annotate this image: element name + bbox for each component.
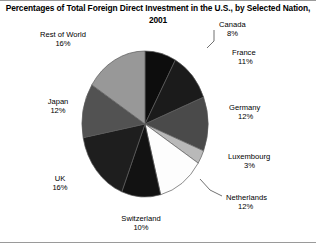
slice-name-switzerland: Switzerland [110,214,172,223]
slice-value-switzerland: 10% [110,223,172,232]
slice-label-uk: UK 16% [42,174,78,193]
slice-value-uk: 16% [42,183,78,192]
chart-title-line-1: Percentages of Total Foreign Direct Inve… [6,3,281,13]
slice-value-germany: 12% [229,112,285,121]
slice-name-japan: Japan [38,97,78,106]
slice-value-netherlands: 12% [226,202,284,211]
slice-label-germany: Germany 12% [229,103,285,122]
figure-top-divider [0,0,316,1]
slice-value-rest-of-world: 16% [30,39,96,48]
slice-value-japan: 12% [38,106,78,115]
pie-svg [81,36,209,212]
slice-name-germany: Germany [229,103,285,112]
slice-label-luxembourg: Luxembourg 3% [228,152,292,171]
slice-label-rest-of-world: Rest of World 16% [30,30,96,49]
pie-graphic [81,36,209,212]
slice-value-canada: 8% [219,29,271,38]
pie-slice-group [82,51,208,197]
pie-chart-figure: Percentages of Total Foreign Direct Inve… [0,0,316,243]
slice-value-france: 11% [232,57,284,66]
slice-label-canada: Canada 8% [219,20,271,39]
slice-label-netherlands: Netherlands 12% [226,193,284,212]
slice-label-france: France 11% [232,48,284,67]
slice-name-uk: UK [42,174,78,183]
slice-label-switzerland: Switzerland 10% [110,214,172,233]
slice-label-japan: Japan 12% [38,97,78,116]
slice-name-canada: Canada [219,20,271,29]
slice-name-france: France [232,48,284,57]
slice-value-luxembourg: 3% [228,161,292,170]
slice-name-luxembourg: Luxembourg [228,152,292,161]
slice-name-netherlands: Netherlands [226,193,284,202]
slice-name-rest-of-world: Rest of World [30,30,96,39]
